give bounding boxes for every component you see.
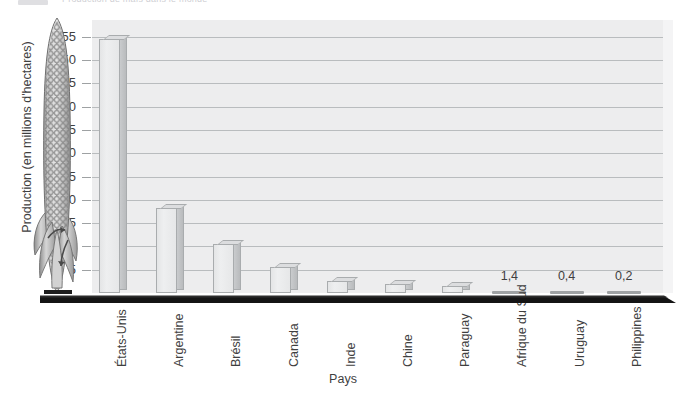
y-axis-tick: [82, 37, 91, 38]
axis-baseline: [40, 290, 676, 299]
header-logo-box: [18, 0, 48, 5]
bar-front-face: [99, 39, 120, 293]
x-axis-tick-label: Philippines: [630, 307, 644, 367]
gridline: [92, 83, 663, 84]
y-axis-tick: [82, 153, 91, 154]
page-header-strip: Production de maïs dans le monde: [0, 0, 686, 8]
y-axis-tick: [82, 200, 91, 201]
gridline: [92, 177, 663, 178]
bar-side-face: [120, 36, 127, 290]
gridline: [92, 107, 663, 108]
bar-side-face: [177, 205, 184, 290]
chart-figure: Production de maïs dans le monde 5101520…: [0, 0, 686, 397]
y-axis-tick: [82, 223, 91, 224]
x-axis-tick-label: Argentine: [172, 313, 186, 367]
bar--tats-unis[interactable]: [99, 39, 120, 293]
bar-value-label: 1,4: [479, 269, 539, 283]
header-title-faint: Production de maïs dans le monde: [62, 0, 207, 4]
x-axis-tick-label: Canada: [287, 323, 301, 367]
y-axis-tick: [82, 83, 91, 84]
bar-front-face: [213, 244, 234, 293]
x-axis-tick-label: Chine: [401, 334, 415, 367]
y-axis-title: Production (en millions d'hectares): [20, 12, 34, 262]
x-axis-tick-label: Paraguay: [458, 313, 472, 367]
x-axis-tick-label: États-Unis: [115, 309, 129, 367]
y-axis-tick: [82, 130, 91, 131]
y-axis-tick: [82, 60, 91, 61]
gridline: [92, 60, 663, 61]
y-axis-tick: [82, 107, 91, 108]
bar-value-label: 0,4: [537, 269, 597, 283]
gridline: [92, 130, 663, 131]
gridline: [92, 37, 663, 38]
x-axis-tick-label: Brésil: [229, 336, 243, 367]
bar-br-sil[interactable]: [213, 244, 234, 293]
x-axis-tick-label: Inde: [344, 343, 358, 367]
x-axis-title: Pays: [0, 372, 686, 386]
bar-front-face: [156, 208, 177, 293]
y-axis-tick: [82, 270, 91, 271]
bar-side-face: [234, 241, 241, 290]
bar-argentine[interactable]: [156, 208, 177, 293]
bar-side-face: [291, 264, 298, 290]
x-axis-tick-label: Uruguay: [573, 320, 587, 367]
y-axis-tick: [82, 177, 91, 178]
corn-cob-illustration: [32, 14, 82, 302]
gridline: [92, 153, 663, 154]
y-axis-tick: [82, 246, 91, 247]
gridline: [92, 200, 663, 201]
plot-area-background-right-edge: [663, 20, 673, 293]
bar-value-label: 0,2: [594, 269, 654, 283]
